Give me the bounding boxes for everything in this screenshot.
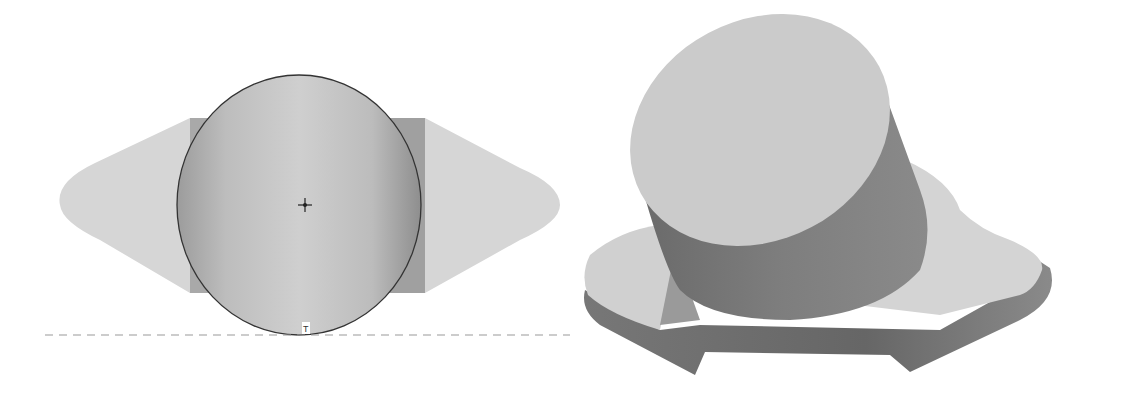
- tangent-constraint-icon[interactable]: T: [302, 322, 310, 334]
- svg-text:T: T: [303, 324, 309, 334]
- sketch-canvas: T: [0, 0, 580, 395]
- model-canvas: [580, 0, 1136, 395]
- sketch-view: T: [0, 0, 580, 395]
- 3d-model-view: [580, 0, 1136, 395]
